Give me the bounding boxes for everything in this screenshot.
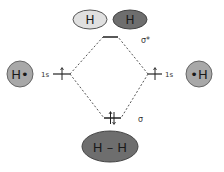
antibonding-lobe-light-label: H	[85, 13, 94, 27]
antibonding-lobe-dark-label: H	[125, 13, 134, 27]
correlation-lines	[70, 37, 148, 118]
right-atom-label: •H	[190, 67, 207, 82]
right-atom: •H	[186, 61, 212, 87]
left-atom: H•	[7, 61, 33, 87]
left-orbital-label: 1s	[41, 71, 49, 79]
left-atom-label: H•	[11, 67, 28, 82]
right-orbital-label: 1s	[165, 71, 173, 79]
bonding-molecule: H – H	[82, 131, 138, 162]
mo-diagram: H H σ* H• 1s 1s •H σ	[0, 0, 224, 172]
antibonding-label: σ*	[141, 36, 150, 45]
bonding-molecule-label: H – H	[93, 140, 127, 155]
bonding-label: σ	[138, 115, 143, 124]
antibonding-lobes: H H	[73, 10, 147, 29]
